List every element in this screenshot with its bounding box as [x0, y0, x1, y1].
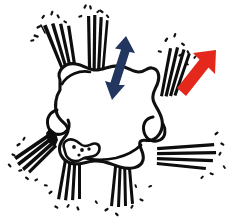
- organelle-dot: [87, 147, 90, 150]
- sketch-canvas: [0, 0, 234, 223]
- organelle-dot: [77, 153, 80, 156]
- organelle-dot: [80, 148, 84, 152]
- figure-root: Hand-drawn cell with radiating fiber bun…: [0, 0, 234, 223]
- organelle-dot: [72, 145, 76, 149]
